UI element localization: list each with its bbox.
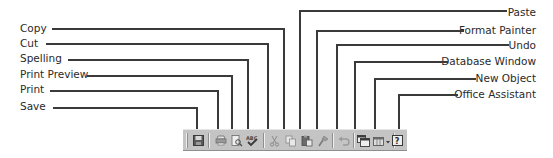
clipboard-paste-icon [301,135,313,147]
leader-print-preview-h [87,75,233,77]
callout-label-office-assistant: Office Assistant [454,88,536,100]
leader-undo-h [336,44,509,46]
leader-paste-v [299,10,301,132]
copy-button[interactable] [283,133,298,148]
leader-new-object-v [374,78,376,132]
leader-cut-v [267,43,269,132]
callout-label-paste: Paste [508,6,536,18]
undo-button[interactable] [336,133,351,148]
paintbrush-icon [317,135,329,147]
print-preview-icon [231,135,243,147]
leader-print-v [217,90,219,132]
toolbar-separator [353,133,355,148]
leader-print-h [50,90,219,92]
toolbar-grip-handle[interactable] [186,133,188,148]
leader-spelling-h [68,59,249,61]
leader-format-painter-v [316,30,318,132]
leader-undo-v [336,44,338,132]
scissors-icon [269,135,280,147]
leader-copy-v [283,28,285,132]
callout-label-print-preview: Print Preview [20,68,88,80]
leader-new-object-h [374,78,476,80]
leader-format-painter-h [316,30,464,32]
toolbar-separator [332,133,334,148]
copy-icon [285,135,297,147]
format-painter-button[interactable] [315,133,330,148]
callout-label-undo: Undo [509,39,536,51]
callout-label-format-painter: Format Painter [459,24,536,36]
spelling-check-icon: ABC [246,135,259,147]
database-toolbar: ABC ? [183,129,407,151]
help-assistant-icon: ? [392,135,404,147]
callout-label-spelling: Spelling [20,52,62,64]
leader-print-preview-v [231,75,233,132]
callout-label-new-object: New Object [476,72,536,84]
printer-icon [215,135,227,146]
callout-label-save: Save [20,100,46,112]
office-assistant-button[interactable]: ? [390,133,405,148]
leader-office-assistant-h [398,94,458,96]
leader-database-window-v [354,61,356,132]
svg-text:?: ? [394,136,399,145]
leader-copy-h [52,28,285,30]
database-window-button[interactable] [356,133,371,148]
leader-paste-h [299,10,507,12]
print-button[interactable] [213,133,228,148]
chevron-down-icon [386,141,390,144]
leader-office-assistant-v [398,94,400,132]
print-preview-button[interactable] [229,133,244,148]
paste-button[interactable] [299,133,314,148]
cut-button[interactable] [267,133,282,148]
database-window-icon [357,135,370,147]
save-button[interactable] [191,133,206,148]
leader-cut-h [46,43,269,45]
new-object-button[interactable] [372,133,392,148]
leader-spelling-v [247,59,249,132]
new-object-icon [373,135,392,147]
callout-label-database-window: Database Window [441,55,536,67]
floppy-disk-icon [193,135,204,146]
spelling-button[interactable]: ABC [245,133,260,148]
callout-label-cut: Cut [20,37,38,49]
leader-save-h [53,107,198,109]
undo-arrow-icon [338,136,350,146]
callout-label-print: Print [20,83,44,95]
toolbar-separator [208,133,210,148]
leader-database-window-h [354,61,448,63]
toolbar-separator [263,133,265,148]
callout-label-copy: Copy [20,22,47,34]
